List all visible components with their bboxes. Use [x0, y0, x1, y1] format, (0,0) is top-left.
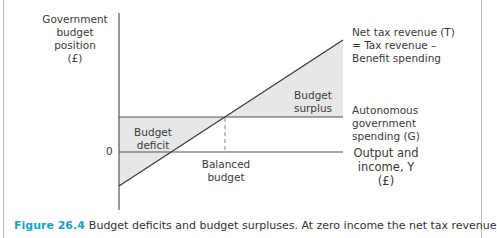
t-line-label-line: Benefit spending — [352, 52, 455, 65]
x-axis-label-line: income, Y — [346, 160, 426, 174]
t-line-label-line: = Tax revenue – — [352, 39, 455, 52]
surplus-label-line: surplus — [288, 102, 338, 115]
t-line-label-line: Net tax revenue (T) — [352, 26, 455, 39]
zero-label: 0 — [106, 145, 113, 158]
g-line-label-line: Autonomous — [352, 104, 420, 117]
balanced-label-line: budget — [196, 171, 256, 184]
x-axis-label-line: (£) — [346, 174, 426, 188]
surplus-label-line: Budget — [288, 89, 338, 102]
balanced-label-line: Balanced — [196, 158, 256, 171]
deficit-label: Budget deficit — [128, 126, 178, 152]
y-axis-label-line: (£) — [40, 52, 110, 65]
g-line-label: Autonomous government spending (G) — [352, 104, 420, 143]
balanced-budget-label: Balanced budget — [196, 158, 256, 184]
t-line-label: Net tax revenue (T) = Tax revenue – Bene… — [352, 26, 455, 65]
x-axis-label-line: Output and — [346, 146, 426, 160]
deficit-label-line: Budget — [128, 126, 178, 139]
x-axis-label: Output and income, Y (£) — [346, 146, 426, 188]
caption-text: Budget deficits and budget surpluses. At… — [89, 219, 497, 232]
y-axis-label-line: Government — [40, 13, 110, 26]
y-axis-label-line: position — [40, 39, 110, 52]
g-line-label-line: government — [352, 117, 420, 130]
figure-caption: Figure 26.4Budget deficits and budget su… — [14, 219, 497, 232]
surplus-label: Budget surplus — [288, 89, 338, 115]
g-line-label-line: spending (G) — [352, 130, 420, 143]
y-axis-label-line: budget — [40, 26, 110, 39]
figure-number: Figure 26.4 — [14, 219, 85, 232]
y-axis-label: Government budget position (£) — [40, 13, 110, 65]
deficit-label-line: deficit — [128, 139, 178, 152]
